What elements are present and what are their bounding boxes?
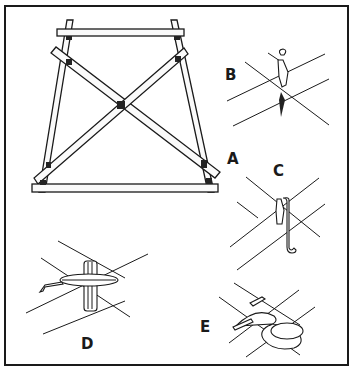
label-e: E [200,318,210,336]
lashing-top-right [174,36,180,40]
label-b: B [225,66,236,84]
lashing-mid-right [175,56,181,62]
label-c: C [273,162,284,180]
label-a: A [227,150,239,168]
label-d: D [81,335,93,353]
lashing-center [117,101,125,109]
lashing-bottom-right [206,178,212,184]
lashing-low-right [201,160,207,168]
top-crossbar [57,29,184,36]
lashing-bottom-left [40,180,46,185]
lashing-mid-left [66,59,72,65]
bottom-crossbar [32,184,218,192]
lashing-low-left [46,162,51,168]
lashing-diagram: A B C D [0,0,353,369]
lashing-top-left [66,36,72,40]
